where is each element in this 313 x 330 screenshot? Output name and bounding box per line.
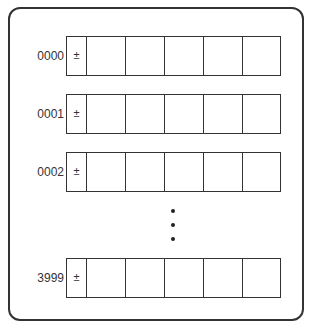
memory-word: ± xyxy=(66,152,281,192)
digit-cell-1 xyxy=(86,95,125,133)
digit-cell-4 xyxy=(203,95,242,133)
digit-cell-5 xyxy=(242,259,281,297)
address-label: 3999 xyxy=(20,258,64,298)
digit-cell-2 xyxy=(125,95,164,133)
digit-cell-5 xyxy=(242,153,281,191)
ellipsis-dot-icon xyxy=(171,237,175,241)
memory-word: ± xyxy=(66,94,281,134)
ellipsis-dot-icon xyxy=(171,209,175,213)
digit-cell-4 xyxy=(203,153,242,191)
sign-cell: ± xyxy=(67,259,86,297)
sign-cell: ± xyxy=(67,153,86,191)
address-label: 0001 xyxy=(20,94,64,134)
sign-cell: ± xyxy=(67,95,86,133)
digit-cell-4 xyxy=(203,37,242,75)
address-label: 0002 xyxy=(20,152,64,192)
digit-cell-5 xyxy=(242,95,281,133)
digit-cell-1 xyxy=(86,37,125,75)
digit-cell-3 xyxy=(164,37,203,75)
digit-cell-4 xyxy=(203,259,242,297)
digit-cell-3 xyxy=(164,95,203,133)
digit-cell-2 xyxy=(125,153,164,191)
memory-row-0002: 0002 ± xyxy=(0,152,313,192)
sign-cell: ± xyxy=(67,37,86,75)
digit-cell-3 xyxy=(164,153,203,191)
digit-cell-3 xyxy=(164,259,203,297)
digit-cell-2 xyxy=(125,259,164,297)
memory-row-0000: 0000 ± xyxy=(0,36,313,76)
digit-cell-2 xyxy=(125,37,164,75)
digit-cell-1 xyxy=(86,153,125,191)
memory-row-0001: 0001 ± xyxy=(0,94,313,134)
memory-row-3999: 3999 ± xyxy=(0,258,313,298)
memory-word: ± xyxy=(66,258,281,298)
digit-cell-5 xyxy=(242,37,281,75)
digit-cell-1 xyxy=(86,259,125,297)
memory-word: ± xyxy=(66,36,281,76)
address-label: 0000 xyxy=(20,36,64,76)
ellipsis-dot-icon xyxy=(171,223,175,227)
